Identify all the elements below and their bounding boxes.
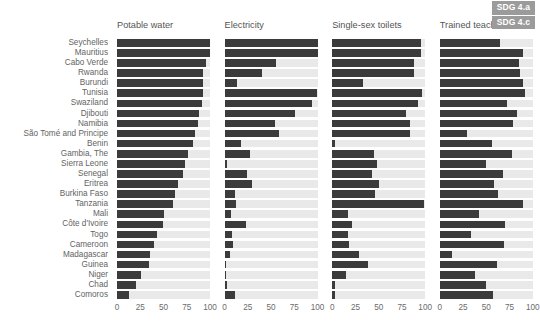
bar-track xyxy=(332,291,425,299)
bar-fill xyxy=(332,130,410,138)
bar-row xyxy=(332,240,425,250)
bar-fill xyxy=(225,79,237,87)
bar-fill xyxy=(440,291,493,299)
plot-area-potable-water xyxy=(117,38,210,300)
x-tick-label: 0 xyxy=(438,303,443,312)
bar-row xyxy=(440,68,533,78)
country-label: Côte d'Ivoire xyxy=(62,219,108,229)
bar-fill xyxy=(332,150,374,158)
bar-fill xyxy=(332,251,359,259)
bar-fill xyxy=(440,170,503,178)
bar-fill xyxy=(117,241,154,249)
bar-fill xyxy=(332,271,346,279)
bar-fill xyxy=(440,100,507,108)
bar-fill xyxy=(225,251,231,259)
plot-area-electricity xyxy=(225,38,318,300)
bar-row xyxy=(117,149,210,159)
bar-track xyxy=(225,160,318,168)
panel-title-potable-water: Potable water xyxy=(117,20,173,30)
bar-row xyxy=(332,280,425,290)
x-axis-potable-water: 0255075100 xyxy=(117,303,210,319)
country-label: Comoros xyxy=(75,290,108,300)
bar-row xyxy=(332,48,425,58)
bar-row xyxy=(332,109,425,119)
bar-fill xyxy=(332,59,414,67)
bar-track xyxy=(225,190,318,198)
bar-row xyxy=(332,88,425,98)
bar-fill xyxy=(225,160,228,168)
country-label: Senegal xyxy=(78,169,108,179)
bar-row xyxy=(225,189,318,199)
country-label: Madagascar xyxy=(63,250,108,260)
bar-fill xyxy=(440,49,523,57)
bar-fill xyxy=(117,150,188,158)
x-tick-label: 100 xyxy=(203,303,217,312)
bar-fill xyxy=(440,251,452,259)
bar-row xyxy=(440,78,533,88)
bar-row xyxy=(117,129,210,139)
bar-row xyxy=(225,119,318,129)
bar-row xyxy=(225,58,318,68)
bar-row xyxy=(117,179,210,189)
country-label: Cabo Verde xyxy=(65,58,108,68)
bar-fill xyxy=(225,261,227,269)
bar-fill xyxy=(440,231,472,239)
bar-row xyxy=(440,230,533,240)
country-label: Tunisia xyxy=(82,88,108,98)
x-axis-single-sex-toilets: 0255075100 xyxy=(332,303,425,319)
bar-row xyxy=(440,98,533,108)
bar-track xyxy=(225,231,318,239)
panel-potable-water xyxy=(117,38,210,300)
bar-row xyxy=(225,230,318,240)
bar-row xyxy=(332,219,425,229)
bar-fill xyxy=(440,130,467,138)
country-label: Chad xyxy=(88,280,108,290)
country-label: Mali xyxy=(93,209,108,219)
bar-fill xyxy=(225,140,242,148)
bar-track xyxy=(225,271,318,279)
bar-row xyxy=(117,290,210,300)
bar-fill xyxy=(332,261,367,269)
bar-row xyxy=(440,219,533,229)
bar-row xyxy=(332,199,425,209)
plot-area-single-sex-toilets xyxy=(332,38,425,300)
country-label: Swaziland xyxy=(71,98,108,108)
bar-row xyxy=(117,270,210,280)
bar-fill xyxy=(440,39,500,47)
bar-fill xyxy=(440,59,519,67)
x-tick-label: 25 xyxy=(243,303,252,312)
country-label: São Tomé and Principe xyxy=(23,129,108,139)
bar-track xyxy=(440,251,533,259)
bar-row xyxy=(440,149,533,159)
bar-row xyxy=(440,290,533,300)
bar-row xyxy=(440,159,533,169)
bar-fill xyxy=(332,49,420,57)
x-tick-label: 75 xyxy=(182,303,191,312)
bar-fill xyxy=(440,89,526,97)
bar-fill xyxy=(117,210,164,218)
bar-row xyxy=(332,139,425,149)
bar-fill xyxy=(440,241,504,249)
bar-fill xyxy=(332,281,335,289)
bar-fill xyxy=(225,100,312,108)
bar-fill xyxy=(332,100,418,108)
bar-row xyxy=(440,280,533,290)
bar-track xyxy=(117,291,210,299)
bar-fill xyxy=(332,89,422,97)
bar-row xyxy=(225,199,318,209)
x-tick-label: 0 xyxy=(330,303,335,312)
bar-fill xyxy=(225,200,236,208)
bar-fill xyxy=(117,160,185,168)
bar-fill xyxy=(440,190,499,198)
bar-fill xyxy=(225,120,275,128)
bar-row xyxy=(440,260,533,270)
bar-row xyxy=(117,209,210,219)
bar-row xyxy=(440,209,533,219)
bar-fill xyxy=(225,271,227,279)
bar-fill xyxy=(225,291,235,299)
bar-fill xyxy=(117,291,129,299)
bar-fill xyxy=(117,221,163,229)
bar-track xyxy=(332,281,425,289)
bar-fill xyxy=(117,200,173,208)
bar-fill xyxy=(225,69,262,77)
